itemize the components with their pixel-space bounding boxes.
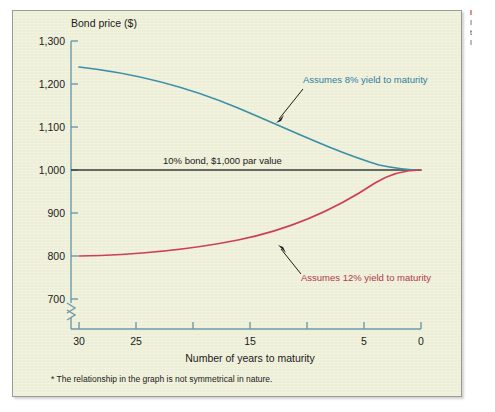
bond-price-figure: 1,300 1,200 1,100 1,000 900 800 700 xyxy=(0,0,495,412)
x-tick-label-15: 15 xyxy=(244,335,256,347)
annotation-blue-label: Assumes 8% yield to maturity xyxy=(303,74,428,85)
par-value-annotation-label: 10% bond, $1,000 par value xyxy=(163,155,282,166)
y-tick-label-1300: 1,300 xyxy=(39,35,65,47)
chart-panel: 1,300 1,200 1,100 1,000 900 800 700 xyxy=(12,10,462,397)
x-tick-label-5: 5 xyxy=(361,335,367,347)
y-tick-label-1100: 1,100 xyxy=(39,121,65,133)
annotation-blue-leader-line xyxy=(279,89,303,119)
annotation-red-arrowhead xyxy=(278,245,286,253)
series-line-12-percent xyxy=(79,170,421,256)
annotation-red-callout: Assumes 12% yield to maturity xyxy=(278,245,431,283)
margin-note-line-1: I xyxy=(470,8,495,18)
figure-footnote: * The relationship in the graph is not s… xyxy=(51,374,272,384)
x-tick-group: 30 25 15 5 0 xyxy=(73,322,424,347)
annotation-blue-arrowhead xyxy=(276,115,284,123)
x-tick-label-0: 0 xyxy=(418,335,424,347)
x-axis-title: Number of years to maturity xyxy=(185,352,315,364)
margin-note-line-2: I xyxy=(470,18,495,28)
y-tick-label-700: 700 xyxy=(47,293,65,305)
annotation-red-label: Assumes 12% yield to maturity xyxy=(301,272,431,283)
annotation-red-leader-line xyxy=(281,249,301,274)
x-tick-label-30: 30 xyxy=(73,335,85,347)
x-tick-label-25: 25 xyxy=(130,335,142,347)
y-tick-label-1200: 1,200 xyxy=(39,78,65,90)
y-axis-title: Bond price ($) xyxy=(71,17,137,29)
y-tick-label-900: 900 xyxy=(47,207,65,219)
y-tick-label-800: 800 xyxy=(47,250,65,262)
bond-price-chart: 1,300 1,200 1,100 1,000 900 800 700 xyxy=(13,11,463,398)
margin-note-line-4: I xyxy=(470,38,495,48)
annotation-blue-callout: Assumes 8% yield to maturity xyxy=(276,74,428,123)
margin-note-line-3: t xyxy=(470,28,495,38)
y-tick-label-1000: 1,000 xyxy=(39,164,65,176)
margin-note: I I t I xyxy=(470,8,495,48)
